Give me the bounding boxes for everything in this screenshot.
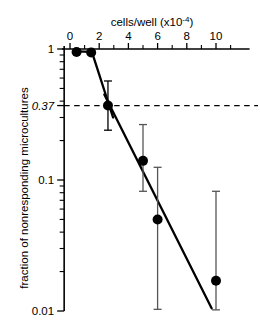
y-axis-tick-label: 1: [48, 43, 54, 55]
x-axis-tick-label: 8: [184, 30, 190, 42]
limiting-dilution-plot: 0246810 10.370.10.01 cells/well (x10-4) …: [0, 0, 260, 329]
data-point-marker: [72, 47, 82, 57]
data-point-marker: [138, 156, 148, 166]
x-axis-title: cells/well (x10-4): [111, 15, 194, 28]
x-axis-title-tail: ): [189, 16, 193, 28]
x-axis-tick-label: 6: [154, 30, 160, 42]
y-axis-tick-label: 0.37: [32, 100, 55, 112]
y-axis-title-text: fraction of nonresponding microcultures: [18, 87, 30, 289]
x-axis-tick-label: 0: [67, 30, 73, 42]
data-point-marker: [153, 214, 163, 224]
y-axis-tick-label: 0.01: [32, 305, 54, 317]
data-point-marker: [86, 48, 96, 58]
x-axis-tick-label: 2: [96, 30, 102, 42]
data-point-marker: [211, 276, 221, 286]
y-axis-title: fraction of nonresponding microcultures: [18, 87, 30, 289]
figure-container: 0246810 10.370.10.01 cells/well (x10-4) …: [0, 0, 260, 329]
x-axis-tick-label: 10: [210, 30, 223, 42]
data-point-marker: [103, 101, 113, 111]
y-axis-tick-label: 0.1: [38, 174, 54, 186]
x-axis-title-text: cells/well (x10-4): [111, 15, 194, 28]
x-axis-tick-label: 4: [125, 30, 132, 42]
x-axis-title-main: cells/well (x10: [111, 16, 183, 28]
